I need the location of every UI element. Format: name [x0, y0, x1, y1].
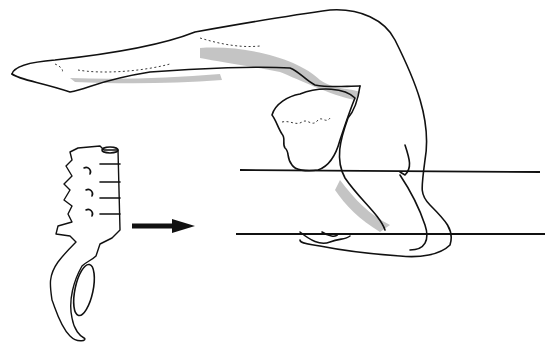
anatomy-illustration [0, 0, 550, 349]
floor-lines [236, 170, 545, 234]
arrow-right-icon [132, 219, 195, 233]
spine-inset [50, 146, 120, 341]
